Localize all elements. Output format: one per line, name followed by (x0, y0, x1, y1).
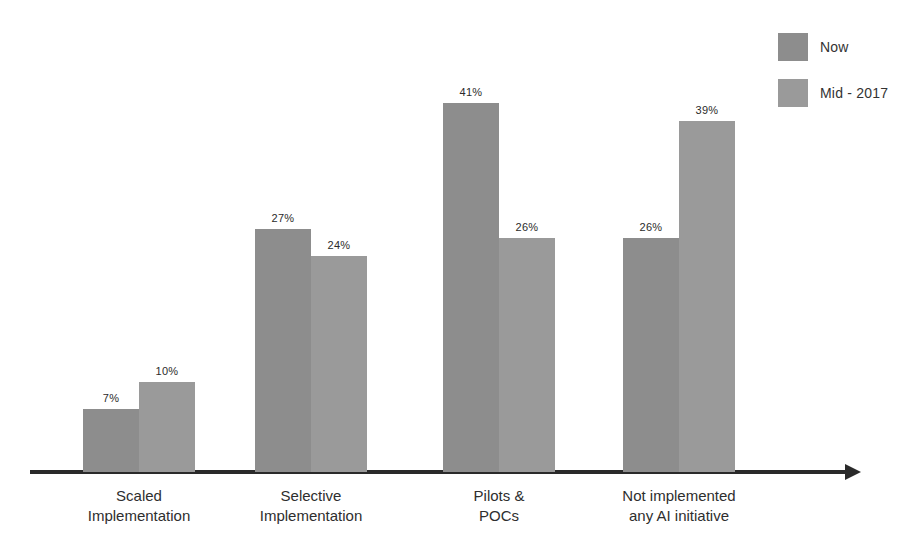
bar-mid-2017[interactable]: 10% (139, 382, 195, 472)
bar-value-label: 24% (311, 239, 367, 256)
x-axis-arrow-icon (845, 464, 861, 480)
bar-rect[interactable] (443, 103, 499, 472)
legend-item-now: Now (778, 30, 908, 64)
bar-group: 7%10% (83, 382, 195, 472)
legend-label-now: Now (820, 39, 849, 55)
legend-label-mid-2017: Mid - 2017 (820, 85, 888, 101)
bar-mid-2017[interactable]: 26% (499, 238, 555, 472)
bar-rect[interactable] (623, 238, 679, 472)
bar-now[interactable]: 7% (83, 409, 139, 472)
bar-rect[interactable] (139, 382, 195, 472)
legend-swatch-mid-2017 (778, 79, 808, 107)
bar-group: 41%26% (443, 103, 555, 472)
bar-value-label: 39% (679, 104, 735, 121)
category-label-line2: Implementation (205, 506, 417, 526)
bar-chart: 7%10%27%24%41%26%26%39% ScaledImplementa… (0, 0, 908, 546)
bar-rect[interactable] (83, 409, 139, 472)
category-label: SelectiveImplementation (205, 486, 417, 526)
category-label-line1: Not implemented (573, 486, 785, 506)
bar-now[interactable]: 27% (255, 229, 311, 472)
bar-rect[interactable] (679, 121, 735, 472)
bar-value-label: 26% (623, 221, 679, 238)
bar-now[interactable]: 41% (443, 103, 499, 472)
bar-mid-2017[interactable]: 24% (311, 256, 367, 472)
chart-legend: Now Mid - 2017 (778, 30, 908, 122)
bar-value-label: 41% (443, 86, 499, 103)
legend-swatch-now (778, 33, 808, 61)
bar-value-label: 7% (83, 392, 139, 409)
bar-now[interactable]: 26% (623, 238, 679, 472)
bar-group: 26%39% (623, 121, 735, 472)
bar-value-label: 27% (255, 212, 311, 229)
bar-value-label: 10% (139, 365, 195, 382)
plot-area: 7%10%27%24%41%26%26%39% ScaledImplementa… (0, 0, 908, 546)
bar-mid-2017[interactable]: 39% (679, 121, 735, 472)
bar-rect[interactable] (499, 238, 555, 472)
category-label-line2: any AI initiative (573, 506, 785, 526)
bar-rect[interactable] (311, 256, 367, 472)
category-label-line1: Selective (205, 486, 417, 506)
bar-group: 27%24% (255, 229, 367, 472)
legend-item-mid-2017: Mid - 2017 (778, 76, 908, 110)
bar-rect[interactable] (255, 229, 311, 472)
bar-value-label: 26% (499, 221, 555, 238)
category-label: Not implementedany AI initiative (573, 486, 785, 526)
